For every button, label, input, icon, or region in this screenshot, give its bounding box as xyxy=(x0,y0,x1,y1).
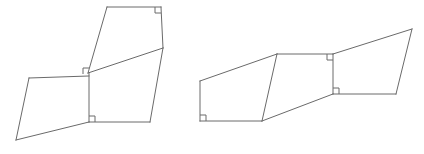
right-edge-inner-diagonal xyxy=(262,54,277,121)
left-composite-figure xyxy=(16,7,163,140)
shapes-layer xyxy=(16,7,412,140)
right-angle-mark-middle-top xyxy=(327,54,333,60)
right-angle-marks-layer xyxy=(83,7,339,122)
left-edge-diagonal-mid xyxy=(88,48,163,73)
left-edge-left-upper xyxy=(88,7,107,73)
geometry-svg xyxy=(0,0,424,154)
right-edge-left-slant xyxy=(200,54,277,81)
right-composite-figure xyxy=(200,29,412,121)
right-edge-far-right xyxy=(396,29,412,94)
left-edge-right-upper xyxy=(161,7,163,48)
left-upper-quad xyxy=(88,7,163,73)
right-right-quad xyxy=(333,29,412,94)
right-edge-upper-slant xyxy=(333,29,412,54)
right-angle-mark-bottom-left xyxy=(200,115,206,121)
left-edge-bottom-diagonal xyxy=(16,122,89,140)
right-angle-mark-center-lower xyxy=(89,116,95,122)
left-edge-left-lower-left xyxy=(16,78,29,140)
left-lower-left-quad xyxy=(16,75,89,140)
geometry-figure-canvas xyxy=(0,0,424,154)
right-left-quad xyxy=(200,54,277,121)
right-middle-quad xyxy=(262,54,333,121)
left-edge-top-lower-left xyxy=(29,76,89,78)
right-angle-mark-middle-bottom xyxy=(333,88,339,94)
left-edge-right-lower xyxy=(150,48,163,122)
right-edge-bottom-diagonal xyxy=(262,94,333,121)
right-angle-mark-upper-right xyxy=(155,7,161,13)
